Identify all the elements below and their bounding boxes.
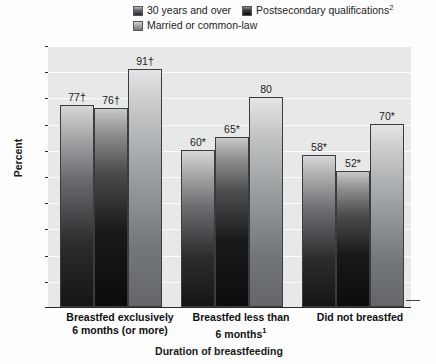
bar-value-label: 91† xyxy=(136,55,154,67)
legend-row-2: Married or common-law xyxy=(133,19,418,31)
bar-series1-group3[interactable]: 58* xyxy=(302,155,336,307)
legend-label-series2: Postsecondary qualifications2 xyxy=(256,4,393,16)
bar-series3-group1[interactable]: 91† xyxy=(128,69,162,307)
legend-swatch-icon-series2 xyxy=(242,6,252,16)
x-category-label-2-footnote: 1 xyxy=(262,326,266,335)
bar-series2-group3[interactable]: 52* xyxy=(336,171,370,307)
bar-group-did-not-breastfed: 58* 52* 70* xyxy=(302,46,406,307)
chart-legend: 30 years and over Postsecondary qualific… xyxy=(133,4,418,34)
legend-entry-30-years-and-over: 30 years and over xyxy=(133,4,231,16)
bar-series2-group1[interactable]: 76† xyxy=(94,108,128,307)
legend-entry-married-or-common-law: Married or common-law xyxy=(133,19,257,31)
bar-group-breastfed-exclusively: 77† 76† 91† xyxy=(60,46,164,307)
source-rule-divider xyxy=(406,300,420,301)
legend-label-series2-footnote: 2 xyxy=(389,3,393,12)
bar-value-label: 76† xyxy=(102,94,120,106)
bar-series1-group1[interactable]: 77† xyxy=(60,105,94,307)
x-category-label-2-text: 6 months xyxy=(216,328,263,340)
plot-area: 77† 76† 91† 60* 65* 80 xyxy=(48,46,411,308)
x-category-label-3-line1: Did not breastfed xyxy=(282,311,436,324)
bar-series2-group2[interactable]: 65* xyxy=(215,137,249,307)
bar-series3-group3[interactable]: 70* xyxy=(370,124,404,307)
x-category-label-3: Did not breastfed xyxy=(282,311,436,324)
plot-background: 77† 76† 91† 60* 65* 80 xyxy=(48,46,411,308)
legend-entry-postsecondary-qualifications: Postsecondary qualifications2 xyxy=(242,4,393,16)
x-axis-title: Duration of breastfeeding xyxy=(24,345,414,357)
bar-series1-group2[interactable]: 60* xyxy=(181,150,215,307)
bar-value-label: 70* xyxy=(379,110,395,122)
x-category-label-2-line2: 6 months1 xyxy=(163,324,319,341)
bar-value-label: 58* xyxy=(311,141,327,153)
legend-label-series3: Married or common-law xyxy=(147,19,257,31)
bar-value-label: 80 xyxy=(260,83,272,95)
bar-value-label: 60* xyxy=(190,136,206,148)
legend-swatch-icon-series1 xyxy=(133,6,143,16)
legend-label-series1: 30 years and over xyxy=(147,4,231,16)
bar-value-label: 77† xyxy=(68,91,86,103)
bar-value-label: 52* xyxy=(345,157,361,169)
legend-row-1: 30 years and over Postsecondary qualific… xyxy=(133,4,418,16)
bar-group-breastfed-less-than-6-months: 60* 65* 80 xyxy=(181,46,285,307)
bar-value-label: 65* xyxy=(224,123,240,135)
legend-label-series2-text: Postsecondary qualifications xyxy=(256,4,389,16)
x-axis-category-labels: Breastfed exclusively 6 months (or more)… xyxy=(48,311,411,343)
chart-figure: 30 years and over Postsecondary qualific… xyxy=(0,0,436,364)
bar-series3-group2[interactable]: 80 xyxy=(249,97,283,307)
y-axis-title: Percent xyxy=(12,128,24,188)
legend-swatch-icon-series3 xyxy=(133,21,143,31)
